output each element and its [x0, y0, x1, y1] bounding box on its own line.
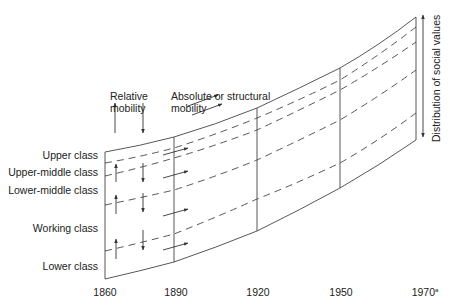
class-label-upper: Upper class: [43, 149, 98, 161]
class-label-working: Working class: [33, 222, 98, 234]
diag-arrow-icon: [163, 209, 188, 216]
class-label-lower-middle: Lower-middle class: [8, 184, 98, 196]
x-tick-1950: 1950: [329, 286, 352, 298]
diag-arrow-icon: [163, 171, 188, 178]
legend-relative-line1: Relative: [110, 90, 148, 102]
legend-relative-label: Relative mobility: [110, 90, 148, 114]
diag-arrow-icon: [163, 243, 188, 250]
x-tick-1920: 1920: [246, 286, 269, 298]
class-label-lower: Lower class: [43, 260, 98, 272]
x-tick-1970: 1970a: [412, 286, 439, 298]
x-tick-1970-text: 1970: [412, 286, 435, 298]
x-tick-1860: 1860: [93, 286, 116, 298]
x-tick-1890: 1890: [164, 286, 187, 298]
legend-absolute-line1: Absolute or structural: [171, 90, 270, 102]
legend-relative-line2: mobility: [110, 102, 148, 114]
x-tick-footnote: a: [435, 287, 438, 293]
class-label-upper-middle: Upper-middle class: [8, 166, 98, 178]
diag-arrow-icon: [163, 148, 188, 155]
bottom-boundary: [105, 140, 416, 279]
vertical-axis-label: Distribution of social values: [430, 15, 442, 142]
legend-absolute-label: Absolute or structural mobility: [171, 90, 270, 114]
top-boundary: [105, 17, 416, 152]
boundary-working-lower: [105, 113, 416, 251]
legend-absolute-line2: mobility: [171, 102, 270, 114]
